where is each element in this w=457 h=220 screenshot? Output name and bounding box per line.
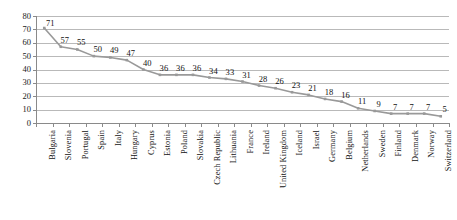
data-value-label: 33 (226, 68, 235, 77)
y-axis-tick-label: 0 (4, 119, 31, 128)
y-axis-tick-label: 70 (4, 25, 31, 34)
x-axis-tick-mark (234, 123, 235, 127)
data-point-marker (109, 56, 112, 59)
x-axis-category-label: Sweden (378, 130, 387, 157)
data-value-label: 40 (143, 59, 152, 68)
y-axis-tick-label: 60 (4, 38, 31, 47)
data-point-marker (357, 107, 360, 110)
data-value-label: 16 (341, 91, 350, 100)
data-point-marker (225, 78, 228, 81)
y-axis-tick-label: 40 (4, 65, 31, 74)
x-axis-line (36, 123, 450, 124)
x-axis-tick-mark (449, 123, 450, 127)
data-value-label: 28 (259, 75, 268, 84)
x-axis-category-label: Netherlands (361, 130, 370, 172)
x-axis-tick-mark (399, 123, 400, 127)
data-point-marker (274, 87, 277, 90)
data-point-marker (340, 100, 343, 103)
data-value-label: 5 (443, 105, 447, 114)
x-axis-category-label: Finland (394, 130, 403, 156)
data-value-label: 34 (209, 67, 218, 76)
data-point-marker (423, 112, 426, 115)
x-axis-tick-mark (53, 123, 54, 127)
x-axis-category-label: Portugal (81, 130, 90, 159)
x-axis-category-label: Czech Republic (213, 130, 222, 185)
x-axis-category-label: Poland (180, 130, 189, 154)
data-value-label: 36 (160, 64, 169, 73)
x-axis-tick-mark (168, 123, 169, 127)
data-value-label: 36 (176, 64, 185, 73)
x-axis-tick-mark (185, 123, 186, 127)
data-value-label: 26 (275, 77, 284, 86)
y-axis-line (36, 16, 37, 124)
data-point-marker (373, 110, 376, 113)
x-axis-tick-mark (267, 123, 268, 127)
data-value-label: 57 (60, 36, 69, 45)
data-point-marker (76, 48, 79, 51)
x-axis-category-label: Cyprus (147, 130, 156, 155)
x-axis-tick-mark (300, 123, 301, 127)
data-point-marker (241, 80, 244, 83)
x-axis-category-label: Ireland (262, 130, 271, 155)
data-value-label: 18 (325, 88, 334, 97)
x-axis-tick-mark (36, 123, 37, 127)
x-axis-tick-mark (366, 123, 367, 127)
x-axis-category-label: Slovenia (64, 130, 73, 160)
x-axis-category-label: Denmark (411, 130, 420, 162)
data-point-marker (406, 112, 409, 115)
x-axis-category-label: Bulgaria (48, 130, 57, 160)
x-axis-category-label: Estonia (163, 130, 172, 156)
data-value-label: 7 (426, 103, 430, 112)
x-axis-category-label: Slovakia (196, 130, 205, 160)
x-axis-category-label: Switzerland (444, 130, 453, 171)
x-axis-tick-mark (284, 123, 285, 127)
data-point-marker (93, 55, 96, 58)
x-axis-tick-mark (152, 123, 153, 127)
data-point-marker (142, 68, 145, 71)
chart-container: 01020304050607080 7157555049474036363634… (0, 0, 457, 220)
data-point-marker (439, 115, 442, 118)
y-axis-tick-label: 50 (4, 52, 31, 61)
x-axis-category-label: United Kingdom (279, 130, 288, 188)
x-axis-category-label: Hungary (130, 130, 139, 160)
x-axis-tick-mark (201, 123, 202, 127)
x-axis-tick-mark (433, 123, 434, 127)
x-axis-category-label: Spain (97, 130, 106, 150)
data-value-label: 31 (242, 71, 251, 80)
data-point-marker (126, 59, 129, 62)
data-point-marker (258, 84, 261, 87)
data-point-marker (291, 91, 294, 94)
x-axis-category-label: Germany (328, 130, 337, 162)
data-value-label: 55 (77, 38, 86, 47)
x-axis-category-label: France (246, 130, 255, 153)
x-axis-category-label: Iceland (295, 130, 304, 155)
data-point-marker (192, 74, 195, 77)
data-point-marker (175, 74, 178, 77)
x-axis-category-label: Belgium (345, 130, 354, 160)
x-axis-tick-mark (86, 123, 87, 127)
x-axis-tick-mark (416, 123, 417, 127)
y-axis-tick-label: 20 (4, 92, 31, 101)
x-axis-tick-mark (69, 123, 70, 127)
x-axis-tick-mark (102, 123, 103, 127)
data-point-marker (159, 74, 162, 77)
data-value-label: 7 (410, 103, 414, 112)
data-point-marker (59, 45, 62, 48)
x-axis-tick-mark (350, 123, 351, 127)
x-axis-category-label: Lithuania (229, 130, 238, 163)
data-value-label: 47 (127, 49, 136, 58)
x-axis-tick-mark (218, 123, 219, 127)
x-axis-category-label: Norway (427, 130, 436, 158)
x-axis-category-label: Israel (312, 130, 321, 149)
data-point-marker (208, 76, 211, 79)
data-value-label: 50 (93, 45, 102, 54)
data-value-label: 7 (393, 103, 397, 112)
x-axis-tick-mark (135, 123, 136, 127)
x-axis-tick-mark (333, 123, 334, 127)
y-axis-tick-label: 10 (4, 105, 31, 114)
data-point-marker (324, 98, 327, 101)
data-value-label: 11 (358, 97, 366, 106)
x-axis-tick-mark (317, 123, 318, 127)
data-value-label: 9 (376, 100, 380, 109)
data-value-label: 36 (193, 64, 202, 73)
